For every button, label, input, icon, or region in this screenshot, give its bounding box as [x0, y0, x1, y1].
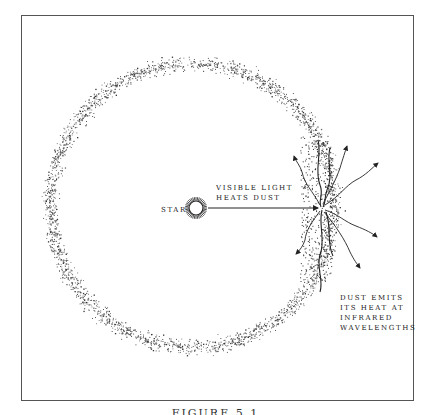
- dust-ring-diagram: [0, 0, 431, 415]
- figure-caption: FIGURE 5.1: [0, 407, 431, 415]
- dust-emits-label-line1: DUST EMITS: [340, 293, 404, 303]
- dust-emits-label-line2: ITS HEAT AT: [340, 303, 404, 313]
- star-label: STAR: [161, 205, 187, 215]
- dust-emits-label-line3: INFRARED: [340, 313, 393, 323]
- dust-emits-label-line4: WAVELENGTHS: [340, 323, 416, 333]
- visible-light-label-line1: VISIBLE LIGHT: [216, 183, 293, 193]
- visible-light-label-line2: HEATS DUST: [216, 193, 281, 203]
- sun-icon: [185, 197, 207, 219]
